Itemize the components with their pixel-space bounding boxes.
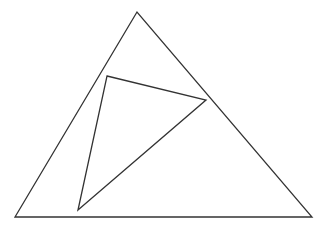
diagram-canvas: [0, 0, 329, 226]
background: [0, 0, 329, 226]
